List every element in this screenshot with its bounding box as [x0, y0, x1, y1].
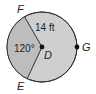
label-e: E [17, 80, 25, 92]
circle-diagram: F E G D 14 ft 120° [0, 0, 96, 94]
label-d: D [44, 49, 52, 61]
angle-label: 120° [14, 43, 35, 54]
label-f: F [17, 3, 25, 15]
radius-label: 14 ft [35, 22, 55, 33]
point-g [75, 45, 80, 50]
label-g: G [82, 41, 91, 53]
